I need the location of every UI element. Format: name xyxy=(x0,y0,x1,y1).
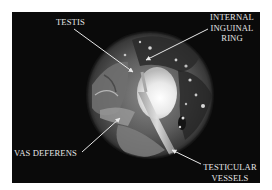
label-testis: TESTIS xyxy=(56,17,85,28)
label-line: VESSELS xyxy=(200,173,260,184)
testicular-vessels-arrow xyxy=(172,150,201,164)
label-line: INGUINAL xyxy=(205,23,259,34)
label-testicular-vessels: TESTICULAR VESSELS xyxy=(200,162,260,183)
label-line: RING xyxy=(205,33,259,44)
label-internal-inguinal-ring: INTERNAL INGUINAL RING xyxy=(205,12,259,44)
label-line: TESTICULAR xyxy=(200,162,260,173)
figure: TESTIS INTERNAL INGUINAL RING VAS DEFERE… xyxy=(0,0,272,190)
label-line: INTERNAL xyxy=(205,12,259,23)
endoscopic-image-panel: TESTIS INTERNAL INGUINAL RING VAS DEFERE… xyxy=(12,12,260,183)
label-vas-deferens: VAS DEFERENS xyxy=(14,148,77,159)
